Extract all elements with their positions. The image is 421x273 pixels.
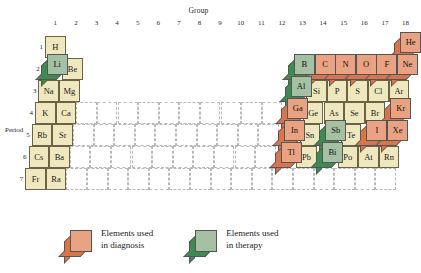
empty-grid-cell <box>241 102 262 124</box>
empty-grid-cell <box>221 102 242 124</box>
period-number-6: 6 <box>17 153 27 161</box>
empty-grid-cell <box>375 168 396 190</box>
element-cell-Cs[interactable]: Cs <box>29 146 50 168</box>
element-block-O[interactable]: O <box>356 54 377 75</box>
element-block-Bi[interactable]: Bi <box>322 142 343 163</box>
element-symbol-He: He <box>400 32 421 53</box>
empty-grid-cell <box>293 168 314 190</box>
legend-cube-face-face <box>70 230 92 252</box>
empty-grid-cell <box>231 168 252 190</box>
group-axis-label: Group <box>0 6 397 15</box>
empty-grid-cell <box>73 124 94 146</box>
element-block-Ne[interactable]: Ne <box>397 54 418 75</box>
element-block-Al[interactable]: Al <box>291 76 312 97</box>
period-number-4: 4 <box>23 109 33 117</box>
empty-grid-cell <box>334 168 355 190</box>
legend-label-line1: Elements used <box>226 228 278 240</box>
group-number-12: 12 <box>274 19 290 27</box>
empty-grid-cell <box>252 168 273 190</box>
element-block-N[interactable]: N <box>335 54 356 75</box>
element-symbol-Kr: Kr <box>390 98 411 119</box>
empty-grid-cell <box>155 124 176 146</box>
empty-grid-cell <box>190 168 211 190</box>
element-symbol-In: In <box>284 120 305 141</box>
element-symbol-C: C <box>315 54 336 75</box>
empty-grid-cell <box>138 102 159 124</box>
element-symbol-Xe: Xe <box>387 120 408 141</box>
empty-grid-cell <box>128 168 149 190</box>
group-number-15: 15 <box>336 19 352 27</box>
group-number-11: 11 <box>253 19 269 27</box>
element-block-Li[interactable]: Li <box>47 54 68 75</box>
element-symbol-N: N <box>335 54 356 75</box>
legend-swatch-therapy-icon <box>195 230 217 252</box>
empty-grid-cell <box>152 146 173 168</box>
group-number-16: 16 <box>356 19 372 27</box>
empty-grid-cell <box>66 168 87 190</box>
empty-grid-cell <box>114 124 135 146</box>
element-symbol-O: O <box>356 54 377 75</box>
empty-grid-cell <box>108 168 129 190</box>
element-block-Ga[interactable]: Ga <box>287 98 308 119</box>
group-number-18: 18 <box>398 19 414 27</box>
element-block-Tl[interactable]: Tl <box>281 142 302 163</box>
empty-grid-cell <box>214 146 235 168</box>
element-block-Xe[interactable]: Xe <box>387 120 408 141</box>
group-number-row: 123456789101112131415161718 <box>0 19 397 29</box>
empty-grid-cell <box>70 146 91 168</box>
group-number-1: 1 <box>47 19 63 27</box>
element-symbol-Al: Al <box>291 76 312 97</box>
legend-item-diagnosis: Elements usedin diagnosis <box>70 228 153 252</box>
group-number-10: 10 <box>233 19 249 27</box>
empty-grid-cell <box>159 102 180 124</box>
element-cell-Sr[interactable]: Sr <box>52 124 73 146</box>
element-block-In[interactable]: In <box>284 120 305 141</box>
empty-grid-cell <box>90 146 111 168</box>
empty-grid-cell <box>200 102 221 124</box>
element-symbol-Ga: Ga <box>287 98 308 119</box>
group-number-2: 2 <box>68 19 84 27</box>
empty-grid-cell <box>179 102 200 124</box>
element-block-He[interactable]: He <box>400 32 421 53</box>
empty-grid-cell <box>97 102 118 124</box>
empty-grid-cell <box>76 102 97 124</box>
element-cell-K[interactable]: K <box>35 102 56 124</box>
element-symbol-Sb: Sb <box>325 120 346 141</box>
empty-grid-cell <box>132 146 153 168</box>
group-number-3: 3 <box>89 19 105 27</box>
element-cell-Rb[interactable]: Rb <box>32 124 53 146</box>
element-block-F[interactable]: F <box>376 54 397 75</box>
empty-grid-cell <box>176 124 197 146</box>
empty-grid-cell <box>111 146 132 168</box>
element-block-Sb[interactable]: Sb <box>325 120 346 141</box>
group-number-13: 13 <box>295 19 311 27</box>
empty-grid-cell <box>197 124 218 146</box>
period-number-3: 3 <box>26 87 36 95</box>
group-number-8: 8 <box>192 19 208 27</box>
group-number-9: 9 <box>212 19 228 27</box>
element-cell-Mg[interactable]: Mg <box>59 80 80 102</box>
legend-cube-face-face <box>195 230 217 252</box>
group-number-7: 7 <box>171 19 187 27</box>
period-number-2: 2 <box>30 65 40 73</box>
empty-grid-cell <box>87 168 108 190</box>
element-symbol-F: F <box>376 54 397 75</box>
element-cell-Fr[interactable]: Fr <box>25 168 46 190</box>
element-cell-Se[interactable]: Se <box>344 102 365 124</box>
empty-grid-cell <box>149 168 170 190</box>
element-symbol-Tl: Tl <box>281 142 302 163</box>
empty-grid-cell <box>235 146 256 168</box>
element-cell-Ba[interactable]: Ba <box>49 146 70 168</box>
element-block-I[interactable]: I <box>366 120 387 141</box>
element-block-C[interactable]: C <box>315 54 336 75</box>
legend-label-line2: in therapy <box>226 240 278 252</box>
legend-label-diagnosis: Elements usedin diagnosis <box>101 228 153 251</box>
period-number-5: 5 <box>20 131 30 139</box>
element-block-B[interactable]: B <box>294 54 315 75</box>
element-cell-Ca[interactable]: Ca <box>56 102 77 124</box>
element-symbol-Ne: Ne <box>397 54 418 75</box>
element-block-Kr[interactable]: Kr <box>390 98 411 119</box>
period-number-7: 7 <box>13 175 23 183</box>
element-cell-Ra[interactable]: Ra <box>46 168 67 190</box>
group-number-17: 17 <box>377 19 393 27</box>
